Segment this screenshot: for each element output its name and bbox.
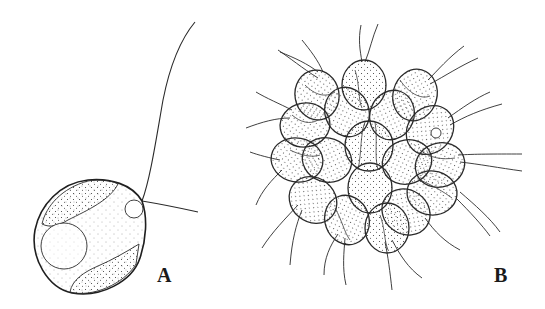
vacuole-b [431,128,441,138]
cell-a [34,22,198,294]
illustration [0,0,545,309]
panel-label-a: A [157,265,171,285]
panel-label-b: B [494,265,507,285]
flagellum-long [142,22,195,201]
colony-b [246,24,522,290]
contractile-vacuole [125,200,143,218]
flagellum-short [142,201,198,212]
